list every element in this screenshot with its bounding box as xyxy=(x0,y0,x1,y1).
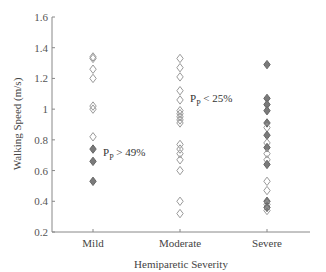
diamond-marker-moderate xyxy=(177,156,183,164)
data-points xyxy=(90,53,270,218)
diamond-marker-moderate xyxy=(177,110,183,118)
y-tick-label: 0.6 xyxy=(34,165,48,177)
diamond-marker-mild xyxy=(90,74,96,82)
diamond-marker-mild xyxy=(90,102,96,110)
diamond-marker-severe xyxy=(264,203,270,211)
diamond-marker-moderate xyxy=(177,209,183,217)
diamond-marker-severe xyxy=(264,106,270,114)
x-category-label-moderate: Moderate xyxy=(159,237,201,249)
diamond-marker-moderate xyxy=(177,96,183,104)
diamond-marker-severe xyxy=(264,177,270,185)
diamond-marker-severe xyxy=(264,60,270,68)
diamond-marker-moderate xyxy=(177,54,183,62)
percentile-annotation-2: PP < 25% xyxy=(190,92,232,108)
diamond-marker-moderate xyxy=(177,73,183,81)
x-category-label-severe: Severe xyxy=(252,237,282,249)
diamond-marker-moderate xyxy=(177,197,183,205)
y-tick-label: 1.6 xyxy=(34,11,48,23)
diamond-marker-moderate xyxy=(177,116,183,124)
diamond-marker-moderate xyxy=(177,63,183,71)
diamond-marker-moderate xyxy=(177,87,183,95)
y-tick-label: 1.4 xyxy=(34,42,48,54)
diamond-marker-moderate xyxy=(177,119,183,127)
x-axis-title: Hemiparetic Severity xyxy=(134,258,228,270)
diamond-marker-moderate xyxy=(177,166,183,174)
walking-speed-scatter-chart: 0.20.40.60.811.21.41.6MildModerateSevere… xyxy=(0,0,326,272)
diamond-marker-moderate xyxy=(177,106,183,114)
diamond-marker-mild xyxy=(90,177,96,185)
diamond-marker-mild xyxy=(90,157,96,165)
percentile-annotation-1: PP > 49% xyxy=(103,146,145,162)
x-category-label-mild: Mild xyxy=(82,237,104,249)
diamond-marker-mild xyxy=(90,105,96,113)
y-tick-label: 1.2 xyxy=(34,72,48,84)
y-tick-label: 0.8 xyxy=(34,134,48,146)
diamond-marker-mild xyxy=(90,65,96,73)
annotations: PP > 49%PP < 25% xyxy=(103,92,232,162)
y-axis-title: Walking Speed (m/s) xyxy=(11,77,24,170)
y-tick-label: 0.2 xyxy=(34,226,48,238)
diamond-marker-mild xyxy=(90,133,96,141)
diamond-marker-mild xyxy=(90,145,96,153)
y-tick-label: 0.4 xyxy=(34,195,48,207)
y-tick-label: 1 xyxy=(43,103,49,115)
diamond-marker-severe xyxy=(264,186,270,194)
diamond-marker-moderate xyxy=(177,113,183,121)
